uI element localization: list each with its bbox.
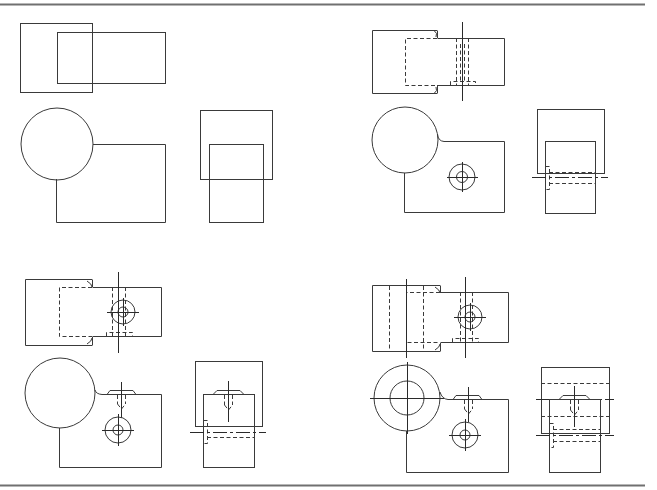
drawing-sheet (0, 0, 657, 490)
panel-4 (370, 277, 614, 473)
panel-1-side-view (201, 111, 273, 223)
panel-1 (21, 24, 273, 223)
panel-2-front-view (372, 107, 505, 213)
panel-4-front-view (370, 362, 509, 473)
panel-2 (372, 22, 608, 214)
panel-2-top-view (373, 22, 505, 101)
panel-4-top-view (373, 277, 509, 358)
panel-3-front-view (25, 358, 162, 468)
panel-3 (25, 272, 266, 468)
panel-1-front-view (21, 108, 166, 223)
panel-1-top-view (21, 24, 166, 93)
panel-3-side-view (190, 362, 266, 468)
panel-3-top-view (26, 272, 162, 353)
panel-4-side-view (536, 368, 614, 473)
panel-2-side-view (532, 110, 608, 214)
